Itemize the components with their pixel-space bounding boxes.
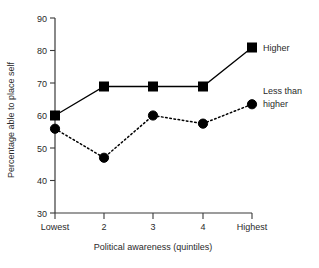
x-axis-title: Political awareness (quintiles) [94, 242, 213, 252]
y-axis-title: Percentage able to place self [6, 61, 16, 178]
legend-label-higher: Higher [263, 43, 290, 53]
series-less-than-higher-markers [50, 100, 256, 163]
x-tick-label-highest: Highest [237, 222, 268, 232]
series-higher-markers [51, 43, 257, 120]
x-tick-label-4: 4 [200, 222, 205, 232]
x-tick-label-3: 3 [150, 222, 155, 232]
x-tick-label-lowest: Lowest [41, 222, 70, 232]
legend-label-less-than-higher-line2: higher [263, 99, 288, 109]
chart-container: Percentage able to place self 90 80 70 6… [0, 0, 319, 268]
line-chart: Percentage able to place self 90 80 70 6… [0, 0, 319, 268]
y-tick-label-40: 40 [37, 176, 47, 186]
y-tick-label-50: 50 [37, 144, 47, 154]
y-tick-label-70: 70 [37, 79, 47, 89]
x-tick-marks [55, 213, 252, 219]
y-tick-label-80: 80 [37, 46, 47, 56]
x-tick-label-2: 2 [101, 222, 106, 232]
y-tick-label-30: 30 [37, 209, 47, 219]
y-tick-label-60: 60 [37, 111, 47, 121]
y-tick-label-90: 90 [37, 14, 47, 24]
legend-label-less-than-higher-line1: Less than [263, 86, 302, 96]
